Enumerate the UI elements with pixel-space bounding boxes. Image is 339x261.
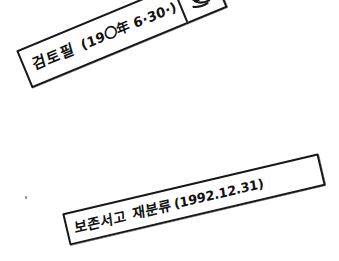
reclassification-stamp-date: (1992.12.31) [173,177,264,211]
review-stamp: 검토필 (19〇年 6·30·) [16,0,228,88]
reclassification-stamp-label: 보존서고 재분류 [73,198,173,235]
reclassification-stamp-text-cell: 보존서고 재분류 (1992.12.31) [65,156,324,243]
review-stamp-date: (19〇年 6·30·) [79,0,178,52]
reclassification-stamp: 보존서고 재분류 (1992.12.31) [62,153,326,245]
signature-seal-icon [179,0,221,18]
review-stamp-text-cell: 검토필 (19〇年 6·30·) [19,0,187,86]
review-stamp-label: 검토필 [30,41,76,73]
scanner-speck [25,196,27,199]
scanned-page: 검토필 (19〇年 6·30·) 보존서고 재분류 (1992.12.31) [0,0,339,261]
